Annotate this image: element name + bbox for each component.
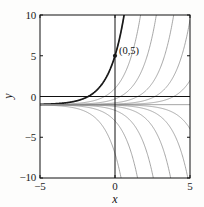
point-annotation-label: (0,5) [119,46,139,57]
ytick-label-10: 10 [14,10,36,21]
point-marker-0-5 [113,54,117,58]
exponential-family-plot: 10 5 0 −5 −10 −5 0 5 y x (0,5) [0,0,204,207]
x-axis-title: x [101,193,129,205]
xtick-label-5: 5 [176,181,204,192]
ytick-label-neg5: −5 [10,132,36,143]
xtick-label-neg5: −5 [26,181,54,192]
y-axis-title: y [2,90,14,102]
xtick-label-0: 0 [101,181,129,192]
ytick-label-5: 5 [14,51,36,62]
ytick-label-0: 0 [14,92,36,103]
marker-dot [113,54,117,58]
